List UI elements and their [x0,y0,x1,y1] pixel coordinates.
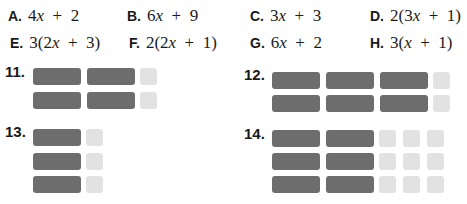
x-tile [87,68,135,85]
unit-tile [403,130,420,147]
unit-tile [403,153,420,170]
choice-letter: C. [250,8,264,24]
x-tile [380,95,428,112]
choice-expression: 2(2x + 1) [146,33,217,53]
problem-12-label: 12. [244,66,265,83]
choice-expression: 6x + 2 [271,33,322,53]
x-tile [33,153,81,170]
unit-tile [427,130,444,147]
x-tile [33,68,81,85]
choice-expression: 3(2x + 3) [29,33,100,53]
choice-letter: E. [10,35,23,51]
choice-letter: H. [370,35,384,51]
unit-tile [379,153,396,170]
choice-h: H. 3(x + 1) [370,33,452,53]
choice-expression: 3x + 3 [270,6,321,26]
x-tile [326,72,374,89]
choice-letter: G. [250,35,265,51]
x-tile [380,72,428,89]
x-tile [326,95,374,112]
problem-14-label: 14. [244,125,265,142]
choice-g: G. 6x + 2 [250,33,322,53]
choice-expression: 4x + 2 [28,6,79,26]
unit-tile [427,153,444,170]
x-tile [272,176,320,193]
choice-c: C. 3x + 3 [250,6,321,26]
x-tile [33,176,81,193]
choice-letter: D. [370,8,384,24]
x-tile [326,130,374,147]
unit-tile [86,153,103,170]
x-tile [33,129,81,146]
x-tile [326,176,374,193]
choice-expression: 3(x + 1) [390,33,452,53]
unit-tile [427,176,444,193]
choice-letter: A. [8,8,22,24]
x-tile [272,130,320,147]
unit-tile [140,92,157,109]
x-tile [272,72,320,89]
unit-tile [403,176,420,193]
choice-expression: 2(3x + 1) [390,6,461,26]
x-tile [33,92,81,109]
unit-tile [86,129,103,146]
choice-e: E. 3(2x + 3) [10,33,100,53]
problem-13-label: 13. [5,123,26,140]
unit-tile [379,176,396,193]
unit-tile [86,176,103,193]
choice-d: D. 2(3x + 1) [370,6,461,26]
x-tile [326,153,374,170]
choice-letter: F. [129,35,140,51]
unit-tile [433,95,450,112]
x-tile [87,92,135,109]
choice-f: F. 2(2x + 1) [129,33,217,53]
choice-letter: B. [127,8,141,24]
x-tile [272,153,320,170]
unit-tile [433,72,450,89]
x-tile [272,95,320,112]
choice-a: A. 4x + 2 [8,6,79,26]
choice-b: B. 6x + 9 [127,6,198,26]
unit-tile [140,68,157,85]
unit-tile [379,130,396,147]
choice-expression: 6x + 9 [147,6,198,26]
problem-11-label: 11. [5,63,25,80]
